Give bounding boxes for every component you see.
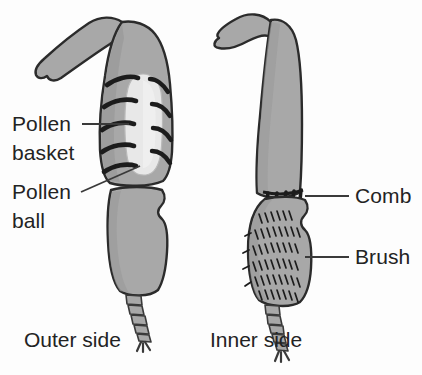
right-tarsal-claw [275, 351, 289, 362]
label-brush: Brush [355, 245, 410, 268]
label-comb: Comb [355, 184, 411, 207]
left-tarsus [126, 295, 151, 342]
caption-outer-side: Outer side [24, 328, 121, 351]
left-tarsal-claw [137, 342, 150, 352]
label-pollen-basket-line1: Pollen [12, 112, 71, 135]
right-leg-inner-side [214, 14, 311, 362]
label-pollen-ball-line1: Pollen [12, 180, 71, 203]
honeybee-leg-figure: Pollen basket Pollen ball Comb Brush Out… [0, 0, 422, 375]
label-pollen-basket-line2: basket [12, 141, 75, 164]
label-pollen-ball-line2: ball [12, 209, 45, 232]
diagram-page: Pollen basket Pollen ball Comb Brush Out… [0, 0, 422, 375]
caption-inner-side: Inner side [210, 328, 302, 351]
